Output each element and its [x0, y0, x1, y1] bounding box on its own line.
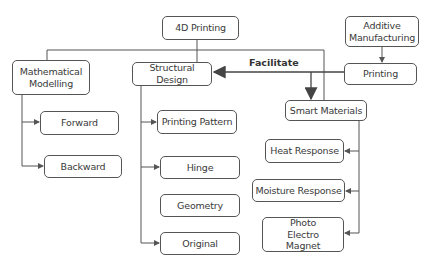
edge-label-facilitate: Facilitate [249, 57, 299, 68]
node-label: Original [182, 238, 218, 250]
node-label: Geometry [177, 200, 223, 212]
node-label: Printing Pattern [162, 116, 233, 128]
node-label: Photo Electro Magnet [273, 217, 333, 253]
node-label: Structural Design [133, 62, 211, 86]
node-label: Printing [363, 68, 398, 80]
node-mathematical-modelling[interactable]: Mathematical Modelling [12, 60, 90, 95]
node-smart-materials[interactable]: Smart Materials [285, 100, 367, 121]
node-label: Mathematical Modelling [19, 66, 83, 90]
node-heat-response[interactable]: Heat Response [265, 139, 344, 163]
node-structural-design[interactable]: Structural Design [132, 62, 212, 86]
node-printing-pattern[interactable]: Printing Pattern [157, 110, 237, 134]
node-geometry[interactable]: Geometry [160, 194, 240, 217]
node-label: Forward [61, 117, 98, 129]
node-label: Additive Manufacturing [349, 20, 415, 44]
node-photo-electro-magnet[interactable]: Photo Electro Magnet [262, 217, 344, 252]
node-label: Heat Response [270, 145, 339, 157]
node-forward[interactable]: Forward [40, 111, 119, 135]
node-label: Moisture Response [255, 185, 341, 197]
node-label: Hinge [187, 162, 214, 174]
node-4d-printing[interactable]: 4D Printing [162, 16, 239, 40]
node-hinge[interactable]: Hinge [160, 156, 240, 179]
node-label: Backward [61, 161, 106, 173]
node-original[interactable]: Original [160, 232, 240, 255]
node-label: 4D Printing [175, 22, 226, 34]
node-moisture-response[interactable]: Moisture Response [252, 179, 345, 202]
node-additive-manufacturing[interactable]: Additive Manufacturing [345, 16, 419, 47]
node-backward[interactable]: Backward [44, 155, 122, 178]
node-label: Smart Materials [290, 105, 362, 117]
node-printing[interactable]: Printing [344, 63, 417, 85]
